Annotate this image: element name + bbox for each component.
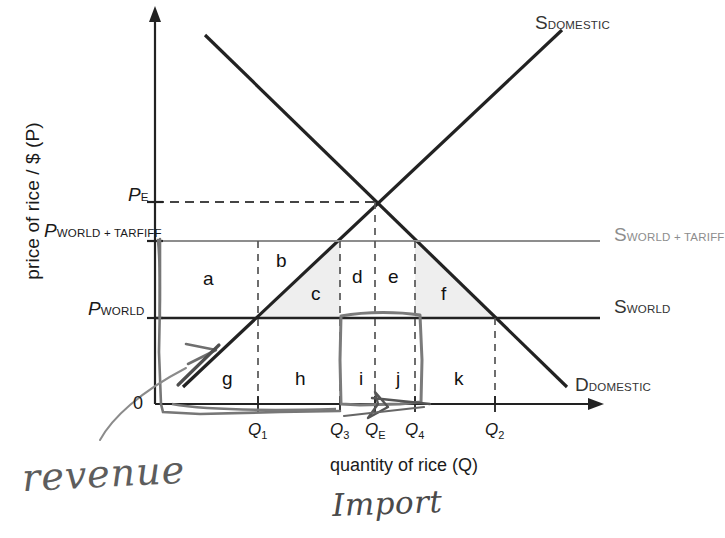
curve-label-s-world: SWORLD [614, 296, 671, 318]
quantity-sub-q2: 2 [498, 429, 504, 441]
curve-symbol-s-world: S [614, 296, 627, 317]
pen-revenue-box-top [158, 240, 160, 318]
curve-symbol-d-domestic: D [575, 374, 589, 395]
origin-label: 0 [133, 393, 143, 414]
pen-arrow-shaft [178, 345, 219, 385]
curve-label-s-world-tariff: SWORLD + TARIFF [614, 224, 725, 246]
price-symbol-world: P [88, 298, 101, 319]
quantity-symbol-q1: Q [248, 420, 261, 439]
quantity-label-qe: QE [365, 420, 386, 441]
region-label-k: k [454, 368, 464, 390]
region-label-j: j [396, 368, 400, 390]
price-sub-world-tariff: WORLD + TARFIFF [57, 227, 162, 239]
y-axis-title: price of rice / $ (P) [22, 106, 44, 296]
price-sub-world: WORLD [101, 305, 145, 317]
region-label-a: a [203, 268, 214, 290]
price-label-world: PWORLD [88, 298, 145, 320]
demand-domestic-curve [205, 35, 567, 387]
quantity-sub-q1: 1 [261, 429, 267, 441]
price-sub-pe: E [141, 191, 149, 203]
quantity-label-q2: Q2 [485, 420, 504, 441]
curve-sub-s-domestic: DOMESTIC [548, 19, 610, 31]
curve-symbol-s-world-tariff: S [614, 224, 627, 245]
quantity-sub-q4: 4 [418, 429, 424, 441]
curve-sub-d-domestic: DOMESTIC [589, 381, 651, 393]
price-label-world-tariff: PWORLD + TARFIFF [44, 220, 162, 242]
price-label-pe: PE [128, 184, 149, 206]
region-label-h: h [295, 368, 306, 390]
curve-sub-s-world: WORLD [627, 303, 671, 315]
quantity-sub-qe: E [378, 429, 385, 441]
quantity-sub-q3: 3 [343, 429, 349, 441]
quantity-label-q3: Q3 [330, 420, 349, 441]
x-axis-arrow [588, 398, 604, 410]
region-label-d: d [352, 266, 363, 288]
curve-label-s-domestic: SDOMESTIC [535, 12, 610, 34]
y-axis-arrow [149, 6, 161, 22]
region-label-g: g [222, 368, 233, 390]
annotation-import: Import [331, 483, 443, 523]
curve-symbol-s-domestic: S [535, 12, 548, 33]
region-label-f: f [441, 283, 446, 305]
quantity-symbol-q4: Q [405, 420, 418, 439]
quantity-symbol-q3: Q [330, 420, 343, 439]
x-axis-title: quantity of rice (Q) [330, 455, 478, 476]
quantity-symbol-qe: Q [365, 420, 378, 439]
curve-sub-s-world-tariff: WORLD + TARIFF [627, 231, 725, 243]
region-label-e: e [388, 266, 399, 288]
region-label-c: c [311, 283, 321, 305]
quantity-label-q4: Q4 [405, 420, 424, 441]
supply-domestic-curve [183, 30, 562, 387]
region-label-i: i [359, 368, 363, 390]
price-symbol-pe: P [128, 184, 141, 205]
quantity-label-q1: Q1 [248, 420, 267, 441]
quantity-symbol-q2: Q [485, 420, 498, 439]
curve-label-d-domestic: DDOMESTIC [575, 374, 651, 396]
region-label-b: b [276, 250, 287, 272]
annotation-revenue: revenue [21, 448, 186, 500]
pen-import-box [340, 313, 422, 406]
price-symbol-world-tariff: P [44, 220, 57, 241]
